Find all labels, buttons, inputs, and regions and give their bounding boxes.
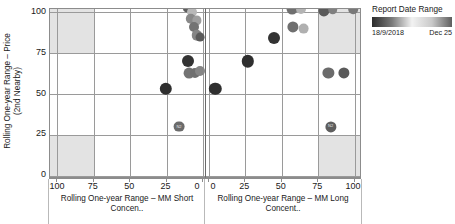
x-tick-label: 0 <box>210 182 215 191</box>
data-point <box>268 32 280 44</box>
gridline-horizontal <box>50 94 205 95</box>
data-point <box>287 21 298 32</box>
legend-title: Report Date Range <box>372 5 454 15</box>
gridline-horizontal <box>50 176 205 177</box>
data-point-label: N2 <box>176 125 181 129</box>
legend-gradient-bar <box>372 17 452 27</box>
x-tick-label: 50 <box>276 182 286 191</box>
gridline-horizontal <box>50 12 205 13</box>
legend: Report Date Range 18/9/2018 Dec 25 <box>372 5 454 39</box>
x-tick-label: 50 <box>124 182 134 191</box>
gridline-vertical <box>282 9 283 177</box>
legend-labels: 18/9/2018 Dec 25 <box>372 28 452 39</box>
data-point <box>241 55 253 67</box>
x-axis-title-right-line2: Concent.. <box>205 204 361 214</box>
data-point <box>348 8 358 14</box>
x-tick-label: 25 <box>239 182 249 191</box>
plot-panel-left: N2 <box>49 8 205 178</box>
y-tick-label: 75 <box>24 48 46 57</box>
legend-max-label: Dec 25 <box>429 28 452 37</box>
x-axis-tick-labels-left: 1007550250 <box>49 179 205 191</box>
gridline-vertical <box>57 9 58 177</box>
data-point: N2 <box>325 121 336 132</box>
gridline-horizontal <box>50 135 205 136</box>
x-axis-title-left-line1: Rolling One-year Range – MM Short <box>61 194 193 203</box>
panel-divider-right <box>361 179 362 224</box>
y-axis-tick-labels: 0255075100 <box>18 0 46 182</box>
gridline-vertical <box>318 9 319 177</box>
gridline-vertical <box>245 9 246 177</box>
y-tick-label: 50 <box>24 89 46 98</box>
x-axis-title-right: Rolling One-year Range – MM Long Concent… <box>205 194 361 214</box>
x-tick-label: 25 <box>161 182 171 191</box>
data-point <box>338 67 349 78</box>
x-tick-label: 75 <box>312 182 322 191</box>
x-tick-label: 75 <box>88 182 98 191</box>
y-tick-label: 100 <box>24 7 46 16</box>
data-point-label: N2 <box>328 125 333 129</box>
legend-min-label: 18/9/2018 <box>372 28 404 37</box>
gridline-vertical <box>130 9 131 177</box>
gridline-vertical <box>355 9 356 177</box>
plot-panel-right: N2 <box>205 8 361 178</box>
x-axis-title-left: Rolling One-year Range – MM Short Concen… <box>49 194 205 214</box>
data-point <box>323 67 334 78</box>
data-point <box>195 66 205 76</box>
chart-root: Rolling One-year Range – Price (2nd Near… <box>0 0 455 224</box>
data-point: N2 <box>174 121 185 132</box>
x-tick-label: 0 <box>194 182 199 191</box>
gridline-horizontal <box>206 94 360 95</box>
x-axis-tick-labels-right: 0255075100 <box>205 179 361 191</box>
x-axis-title-right-line1: Rolling One-year Range – MM Long <box>217 194 348 203</box>
data-point <box>196 32 205 41</box>
y-axis-title-line1: Rolling One-year Range – Price <box>3 33 12 149</box>
x-tick-label: 100 <box>345 182 360 191</box>
data-point <box>298 23 309 34</box>
gridline-vertical <box>209 9 210 177</box>
data-point <box>182 55 194 67</box>
data-point <box>328 8 338 14</box>
gridline-horizontal <box>206 53 360 54</box>
x-tick-label: 100 <box>49 182 64 191</box>
gridline-horizontal <box>206 176 360 177</box>
gridline-horizontal <box>50 53 205 54</box>
x-tick-mark <box>208 179 209 182</box>
y-tick-label: 25 <box>24 129 46 138</box>
x-axis-title-left-line2: Concen.. <box>49 204 205 214</box>
gridline-vertical <box>94 9 95 177</box>
y-tick-label: 0 <box>24 170 46 179</box>
x-tick-mark <box>202 179 203 182</box>
gridline-horizontal <box>206 135 360 136</box>
